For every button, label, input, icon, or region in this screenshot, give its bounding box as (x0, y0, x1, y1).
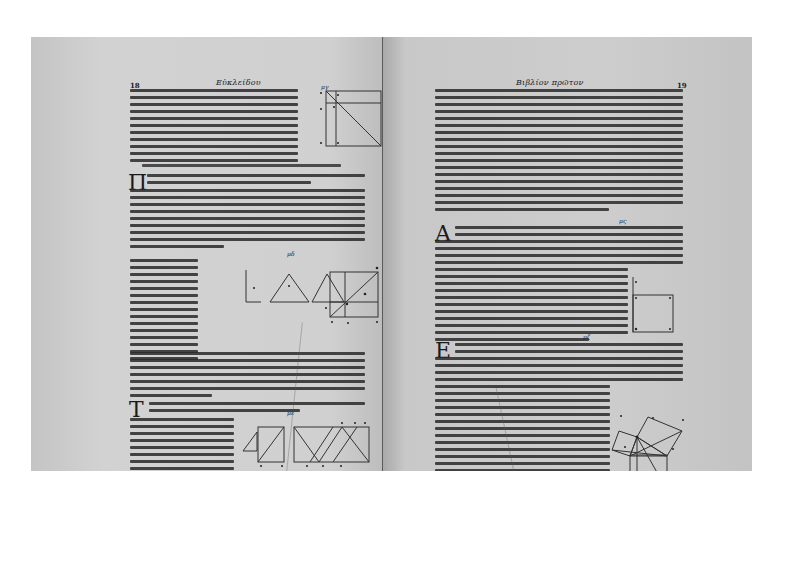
text-block (435, 357, 683, 385)
text-block (435, 89, 683, 215)
text-block (130, 259, 198, 364)
text-block (130, 164, 364, 171)
left-running-head: Εὐκλείδου (216, 78, 261, 87)
text-block (435, 240, 683, 268)
text-block (130, 418, 234, 471)
text-block (455, 343, 683, 357)
text-block (130, 352, 365, 401)
proposition-mark: μς (619, 217, 626, 224)
parallelograms-figure (237, 422, 367, 471)
book-spread: 18 Εὐκλείδου μγ Π μδ (31, 37, 752, 471)
square-figure (293, 87, 383, 162)
square-figure (631, 275, 681, 335)
text-block (149, 402, 365, 416)
text-block (130, 89, 298, 166)
pythagorean-figure (603, 405, 678, 471)
right-running-head: Βιβλίον πρῶτον (516, 78, 583, 87)
dropcap: Τ (129, 400, 144, 420)
left-page: 18 Εὐκλείδου μγ Π μδ (31, 37, 383, 471)
text-block (147, 174, 365, 188)
text-block (130, 189, 365, 252)
text-block (455, 226, 683, 240)
proposition-mark: μζ (583, 333, 590, 340)
proposition-mark: μδ (287, 250, 295, 257)
text-block (435, 385, 610, 471)
right-page: Βιβλίον πρῶτον 19 μς Α μζ Ε (383, 37, 752, 471)
text-block (435, 268, 628, 345)
triangles-parallelogram-figure (244, 262, 369, 347)
